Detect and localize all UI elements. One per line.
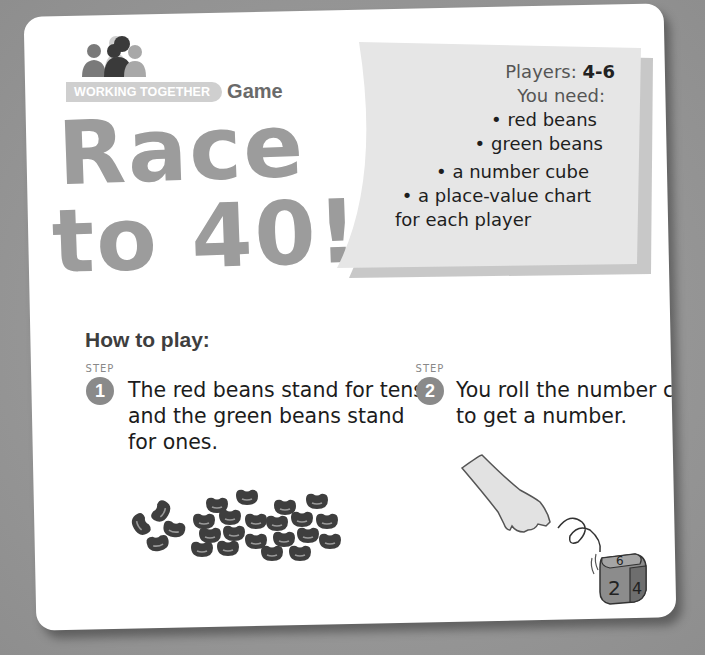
players-count: 4-6	[582, 61, 615, 82]
hand-rolling-die-illustration: 6 2 4	[450, 450, 670, 620]
game-card: WORKING TOGETHER Game Race to 40! Player…	[24, 3, 677, 630]
step-number: 1	[86, 377, 114, 405]
die-front-face: 2	[608, 576, 621, 600]
beans-illustration	[122, 482, 352, 572]
requirement-item: for each player	[335, 208, 615, 232]
die-side-face: 4	[632, 579, 642, 598]
people-group-icon	[80, 35, 150, 77]
requirement-item: • a place-value chart	[335, 184, 615, 208]
requirement-item: • a number cube	[335, 160, 615, 184]
hand-icon	[462, 455, 550, 532]
motion-lines	[591, 554, 598, 574]
players-line: Players: 4-6	[335, 60, 615, 84]
you-need-label: You need:	[335, 84, 615, 108]
step-text: The red beans stand for tens and the gre…	[128, 377, 428, 455]
how-to-play-heading: How to play:	[85, 328, 210, 352]
requirement-item: • green beans	[335, 132, 615, 156]
step-badge: STEP 2	[412, 365, 448, 405]
step-number: 2	[416, 377, 444, 405]
step-badge: STEP 1	[82, 365, 118, 405]
die-top-face: 6	[616, 554, 624, 568]
requirement-item: • red beans	[335, 108, 615, 132]
motion-swirl	[558, 518, 600, 552]
step-text: You roll the number cube to get a number…	[456, 377, 676, 429]
die-icon: 6 2 4	[600, 554, 646, 604]
requirements-note: Players: 4-6 You need: • red beans • gre…	[315, 32, 655, 282]
